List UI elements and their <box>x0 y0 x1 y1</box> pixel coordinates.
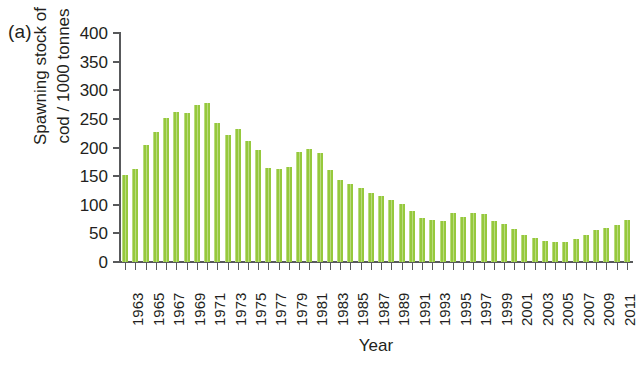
x-axis-tick <box>166 263 167 270</box>
y-axis-tick-label: 350 <box>62 54 108 71</box>
x-axis-tick-label: 1973 <box>233 268 248 326</box>
x-axis-tick <box>330 263 331 270</box>
y-axis-tick-label: 300 <box>62 82 108 99</box>
y-axis-tick <box>113 32 120 34</box>
bar <box>603 228 609 262</box>
x-axis-tick-label: 1985 <box>355 268 370 326</box>
bar <box>573 239 579 262</box>
bar <box>460 217 466 262</box>
bar <box>368 193 374 262</box>
bar <box>562 242 568 262</box>
x-axis-tick-label: 1971 <box>212 268 227 326</box>
bar <box>481 214 487 262</box>
bar <box>276 169 282 262</box>
bar <box>184 113 190 262</box>
chart-figure: (a) Spawning stock of cod / 1000 tonnes … <box>0 0 644 368</box>
bar <box>388 200 394 262</box>
x-axis-tick-label: 1979 <box>294 268 309 326</box>
bar <box>132 169 138 262</box>
x-axis-tick-label: 1997 <box>478 268 493 326</box>
bar <box>245 141 251 262</box>
bar <box>122 175 128 262</box>
y-axis-tick <box>113 61 120 63</box>
x-axis-tick-label: 1975 <box>253 268 268 326</box>
bar <box>399 204 405 262</box>
bar <box>225 135 231 262</box>
y-axis-tick-label: 100 <box>62 197 108 214</box>
x-axis-tick <box>309 263 310 270</box>
x-axis-tick-label: 1995 <box>458 268 473 326</box>
bar <box>286 167 292 262</box>
bar <box>511 229 517 262</box>
bar <box>470 213 476 262</box>
x-axis-tick-label: 1965 <box>151 268 166 326</box>
y-axis-tick <box>113 232 120 234</box>
x-axis-tick <box>207 263 208 270</box>
y-axis-tick-label: 200 <box>62 140 108 157</box>
x-axis-tick-label: 1987 <box>376 268 391 326</box>
x-axis-tick-label: 1999 <box>499 268 514 326</box>
x-axis-tick <box>617 263 618 270</box>
x-axis-tick-label: 1991 <box>417 268 432 326</box>
x-axis-tick <box>146 263 147 270</box>
y-axis-tick <box>113 204 120 206</box>
x-axis-tick <box>514 263 515 270</box>
bar <box>450 213 456 262</box>
bar <box>491 221 497 262</box>
bar <box>521 235 527 262</box>
x-axis-tick <box>432 263 433 270</box>
bar <box>204 103 210 262</box>
bar <box>419 218 425 262</box>
plot-area <box>120 33 632 262</box>
x-axis-tick-label: 2011 <box>622 268 637 326</box>
x-axis-tick-label: 2003 <box>540 268 555 326</box>
y-axis-tick-label: 150 <box>62 168 108 185</box>
x-axis-title: Year <box>120 336 632 355</box>
y-axis-tick-labels: 050100150200250300350400 <box>62 33 108 262</box>
x-axis-tick-label: 1989 <box>396 268 411 326</box>
y-axis-tick <box>113 175 120 177</box>
x-axis-tick <box>248 263 249 270</box>
bar <box>378 196 384 262</box>
y-axis-tick <box>113 89 120 91</box>
x-axis-tick <box>350 263 351 270</box>
bar <box>143 145 149 262</box>
bar <box>501 224 507 262</box>
bar <box>614 225 620 262</box>
x-axis-tick <box>412 263 413 270</box>
x-axis-tick-label: 1969 <box>192 268 207 326</box>
x-axis-tick <box>535 263 536 270</box>
y-axis-tick-label: 250 <box>62 111 108 128</box>
bar <box>409 211 415 262</box>
x-axis-tick <box>391 263 392 270</box>
bar <box>429 220 435 262</box>
x-axis-tick-label: 1981 <box>314 268 329 326</box>
x-axis-tick <box>494 263 495 270</box>
bar <box>296 152 302 262</box>
bar <box>440 221 446 262</box>
bar <box>552 242 558 262</box>
x-axis-tick-label: 2005 <box>560 268 575 326</box>
x-axis-tick <box>371 263 372 270</box>
bar <box>542 241 548 262</box>
bar <box>347 184 353 262</box>
bar <box>265 168 271 262</box>
x-axis-tick <box>125 263 126 270</box>
y-axis-tick <box>113 118 120 120</box>
bar <box>593 230 599 262</box>
bar <box>327 170 333 262</box>
x-axis-tick <box>289 263 290 270</box>
y-axis-tick-label: 0 <box>62 254 108 271</box>
bar <box>214 123 220 262</box>
bar <box>153 132 159 262</box>
bar <box>337 180 343 262</box>
bar <box>624 220 630 262</box>
x-axis-tick <box>453 263 454 270</box>
x-axis-tick <box>187 263 188 270</box>
x-axis-tick <box>576 263 577 270</box>
x-axis-tick <box>555 263 556 270</box>
bar <box>235 129 241 262</box>
bar <box>173 112 179 262</box>
x-axis-tick-label: 1993 <box>437 268 452 326</box>
bar <box>583 235 589 262</box>
